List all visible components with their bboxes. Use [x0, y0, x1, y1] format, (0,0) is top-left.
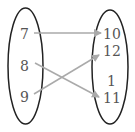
codomain-label-11: 11: [103, 91, 121, 105]
domain-label-9: 9: [20, 90, 29, 104]
domain-label-7: 7: [20, 27, 29, 41]
codomain-label-1: 1: [107, 74, 116, 88]
codomain-label-10: 10: [103, 27, 121, 41]
arrow-8-to-11: [35, 63, 99, 97]
arrow-9-to-12: [34, 55, 99, 94]
codomain-label-12: 12: [103, 44, 121, 58]
domain-label-8: 8: [20, 59, 29, 73]
